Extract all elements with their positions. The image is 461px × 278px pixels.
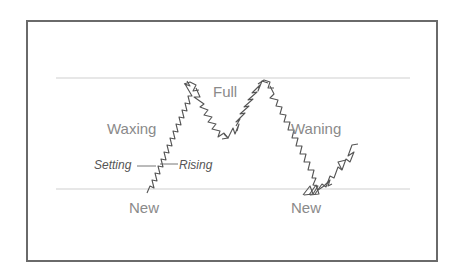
moon-phase-diagram — [0, 0, 461, 278]
label-waning: Waning — [291, 121, 341, 136]
label-setting: Setting — [94, 159, 131, 171]
label-full: Full — [213, 84, 237, 99]
label-new-left: New — [129, 200, 159, 215]
label-rising: Rising — [179, 159, 212, 171]
label-waxing: Waxing — [107, 121, 156, 136]
phase-curve — [147, 80, 358, 195]
label-new-right: New — [291, 200, 321, 215]
